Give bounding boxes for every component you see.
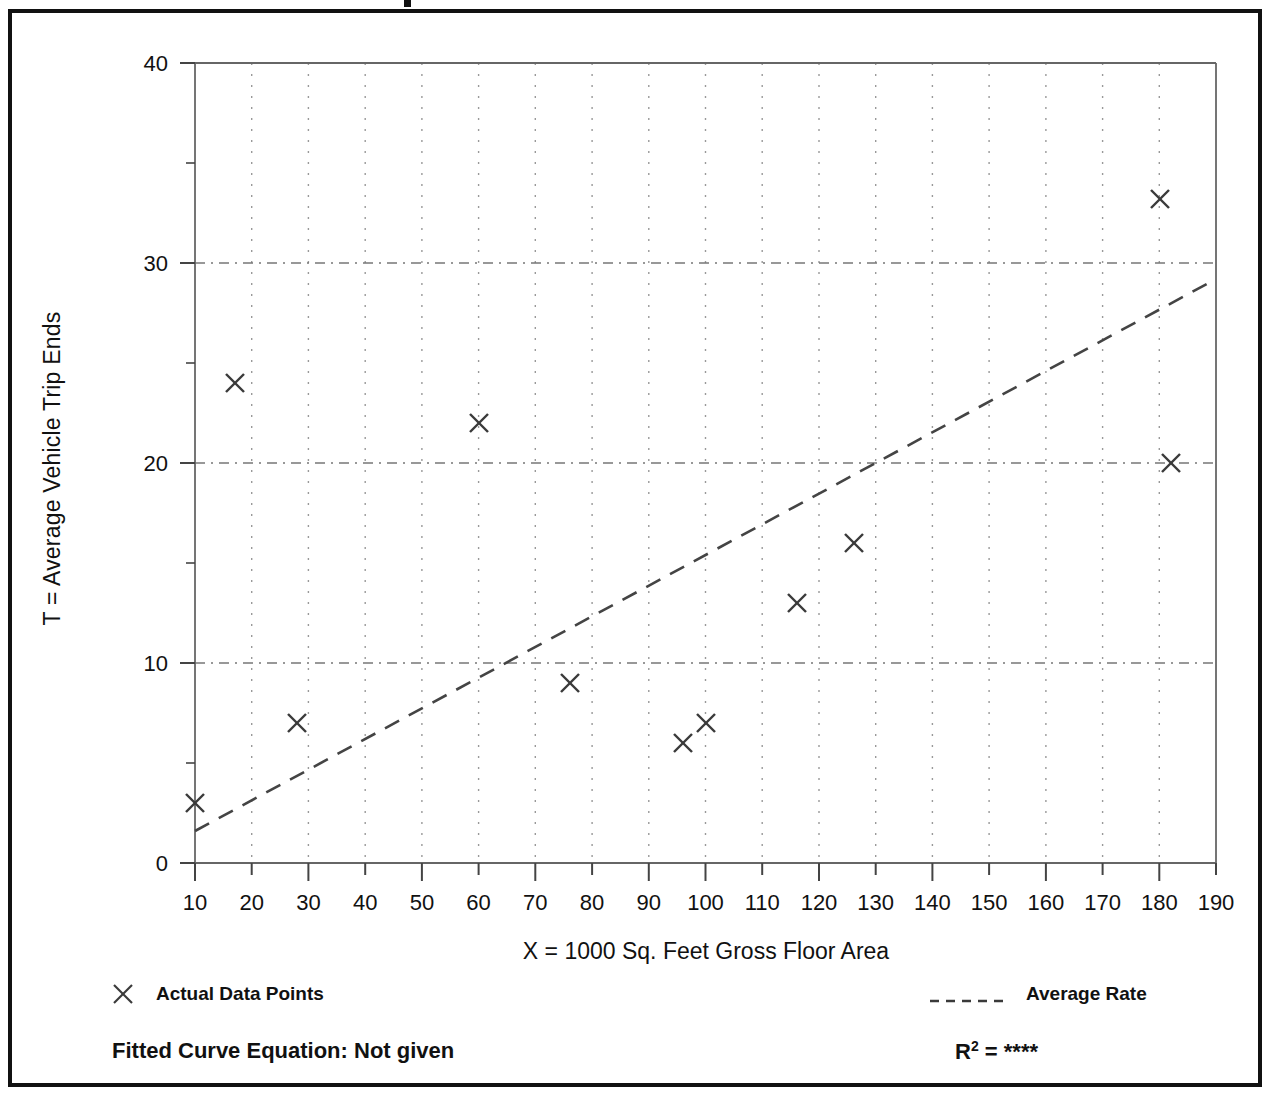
x-tick-label-170: 170 [1073, 890, 1133, 916]
x-tick-label-150: 150 [959, 890, 1019, 916]
legend-item-average-rate: Average Rate [930, 983, 1147, 1005]
x-tick-label-60: 60 [449, 890, 509, 916]
x-axis-title: X = 1000 Sq. Feet Gross Floor Area [195, 938, 1217, 965]
y-tick-label-30: 30 [108, 251, 168, 277]
dashed-line-icon [930, 993, 1004, 996]
x-tick-label-110: 110 [732, 890, 792, 916]
chart-legend: Actual Data Points Average Rate [0, 983, 1279, 1023]
legend-label-actual-data-points: Actual Data Points [156, 983, 324, 1005]
x-tick-label-80: 80 [562, 890, 622, 916]
x-tick-label-100: 100 [676, 890, 736, 916]
x-tick-label-190: 190 [1186, 890, 1246, 916]
r-squared-equals: = [979, 1039, 1004, 1064]
y-axis-title: T = Average Vehicle Trip Ends [39, 299, 66, 639]
x-tick-label-20: 20 [222, 890, 282, 916]
r-squared-stars: **** [1004, 1039, 1038, 1064]
chart-footer: Fitted Curve Equation: Not given R2 = **… [0, 1038, 1279, 1078]
legend-item-actual-data-points: Actual Data Points [112, 983, 324, 1005]
y-tick-label-40: 40 [108, 51, 168, 77]
x-tick-label-40: 40 [335, 890, 395, 916]
y-tick-label-0: 0 [108, 851, 168, 877]
x-tick-label-50: 50 [392, 890, 452, 916]
x-tick-label-70: 70 [505, 890, 565, 916]
x-tick-label-160: 160 [1016, 890, 1076, 916]
x-tick-label-140: 140 [902, 890, 962, 916]
x-marker-icon [112, 983, 134, 1005]
x-tick-label-90: 90 [619, 890, 679, 916]
x-axis-ticks [195, 863, 1216, 881]
x-tick-label-120: 120 [789, 890, 849, 916]
y-axis-major-ticks [180, 63, 195, 863]
fitted-curve-equation: Fitted Curve Equation: Not given [112, 1038, 454, 1064]
y-tick-label-20: 20 [108, 451, 168, 477]
x-tick-label-30: 30 [278, 890, 338, 916]
r-squared-exponent: 2 [971, 1038, 979, 1054]
x-tick-label-180: 180 [1129, 890, 1189, 916]
legend-label-average-rate: Average Rate [1026, 983, 1147, 1005]
y-tick-label-10: 10 [108, 651, 168, 677]
r-squared-symbol: R [955, 1039, 971, 1064]
chart-page: 0 10 20 30 40 10 20 30 40 50 60 70 80 90… [0, 0, 1279, 1107]
x-tick-label-130: 130 [846, 890, 906, 916]
r-squared-value: R2 = **** [955, 1038, 1038, 1065]
figure-area: 0 10 20 30 40 10 20 30 40 50 60 70 80 90… [0, 0, 1279, 1107]
x-tick-label-10: 10 [165, 890, 225, 916]
